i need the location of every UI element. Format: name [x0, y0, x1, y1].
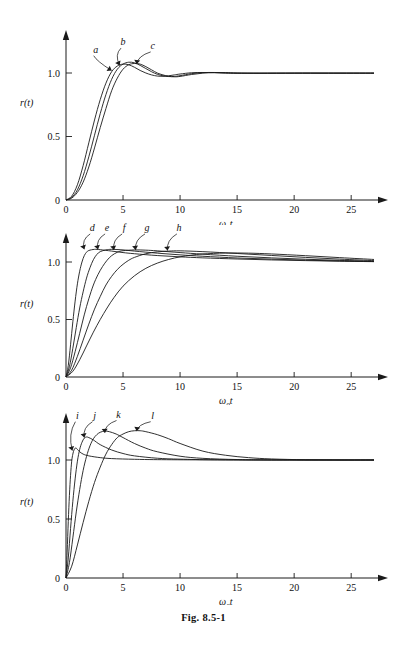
label-arrowhead-d: [80, 245, 86, 250]
response-curve-e: [66, 249, 374, 377]
curve-label-f: f: [123, 222, 127, 233]
response-curve-c: [66, 63, 374, 200]
response-curve-j: [66, 437, 374, 578]
x-tick-label: 5: [121, 582, 126, 593]
x-tick-label: 5: [121, 204, 126, 215]
panel-1-svg: 051015202500.51.0r(t)ω0tabc: [0, 0, 407, 225]
curve-label-l: l: [151, 410, 154, 421]
x-tick-label: 25: [346, 204, 356, 215]
response-curve-d: [66, 249, 374, 377]
curve-label-c: c: [150, 40, 155, 51]
figure-caption: Fig. 8.5-1: [0, 612, 407, 623]
y-tick-label: 1.0: [48, 455, 61, 466]
x-tick-label: 25: [346, 381, 356, 392]
label-arrowhead-e: [94, 245, 100, 250]
x-tick-label: 15: [232, 381, 242, 392]
y-tick-label: 0: [55, 195, 60, 206]
x-tick-label: 25: [346, 582, 356, 593]
x-tick-label: 0: [64, 381, 69, 392]
response-curve-b: [66, 62, 374, 200]
curve-label-j: j: [91, 410, 96, 421]
x-tick-label: 0: [64, 204, 69, 215]
curve-label-a: a: [93, 44, 98, 55]
curve-label-i: i: [76, 410, 79, 421]
response-curve-f: [66, 250, 374, 377]
x-tick-label: 10: [175, 381, 185, 392]
y-tick-label: 0: [55, 573, 60, 584]
x-tick-label: 0: [64, 582, 69, 593]
plot-panel-2: 051015202500.51.0r(t)ω0tdefgh: [0, 215, 407, 405]
response-curve-a: [66, 64, 374, 200]
x-tick-label: 15: [232, 204, 242, 215]
y-tick-label: 0.5: [48, 514, 61, 525]
response-curve-g: [66, 251, 374, 377]
y-tick-label: 1.0: [48, 257, 61, 268]
x-tick-label: 10: [175, 582, 185, 593]
x-axis-title: ω0t: [219, 596, 233, 605]
x-axis-title: ω0t: [219, 395, 233, 405]
y-tick-label: 0: [55, 372, 60, 383]
figure-root: 051015202500.51.0r(t)ω0tabc 051015202500…: [0, 0, 407, 648]
curve-label-k: k: [116, 409, 121, 420]
panel-2-svg: 051015202500.51.0r(t)ω0tdefgh: [0, 215, 407, 405]
y-axis-title: r(t): [20, 97, 34, 109]
curve-label-h: h: [176, 222, 181, 233]
response-curve-l: [66, 431, 374, 578]
curve-label-b: b: [121, 36, 126, 47]
panel-3-svg: 051015202500.51.0r(t)ω0tijkl: [0, 405, 407, 605]
y-tick-label: 1.0: [48, 68, 61, 79]
x-tick-label: 20: [289, 204, 299, 215]
y-tick-label: 0.5: [48, 131, 61, 142]
label-arrowhead-a: [107, 66, 112, 71]
curve-label-g: g: [144, 222, 149, 233]
x-tick-label: 10: [175, 204, 185, 215]
label-arrowhead-h: [164, 246, 170, 250]
x-tick-label: 5: [121, 381, 126, 392]
response-curve-k: [66, 431, 374, 578]
label-arrowhead-g: [132, 246, 138, 250]
x-tick-label: 20: [289, 582, 299, 593]
curve-label-d: d: [90, 222, 96, 233]
y-axis-title: r(t): [20, 496, 34, 508]
y-tick-label: 0.5: [48, 314, 61, 325]
response-curve-i: [66, 448, 374, 578]
plot-panel-3: 051015202500.51.0r(t)ω0tijkl: [0, 405, 407, 605]
x-tick-label: 15: [232, 582, 242, 593]
label-leader-c: [137, 52, 151, 64]
plot-panel-1: 051015202500.51.0r(t)ω0tabc: [0, 0, 407, 225]
curve-label-e: e: [105, 222, 110, 233]
response-curve-h: [66, 253, 374, 377]
label-leader-l: [137, 422, 151, 431]
y-axis-title: r(t): [20, 298, 34, 310]
x-tick-label: 20: [289, 381, 299, 392]
